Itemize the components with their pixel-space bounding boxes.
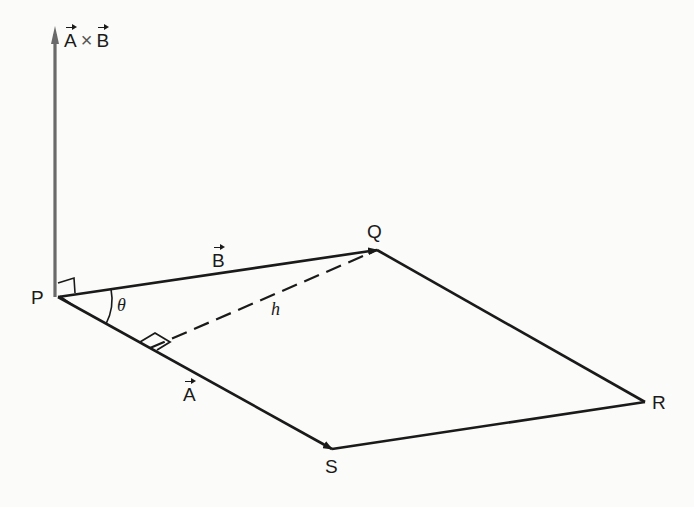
normal-vector-axb bbox=[51, 26, 59, 297]
vertex-r-label: R bbox=[652, 393, 666, 412]
vertex-p-label: P bbox=[31, 288, 44, 307]
side-qr-edge bbox=[377, 250, 645, 402]
diagram-canvas: A×B B A θ h P Q R S bbox=[0, 0, 694, 507]
cross-product-b: B bbox=[96, 31, 109, 50]
cross-product-a: A bbox=[64, 31, 77, 50]
vector-a-label: A bbox=[183, 385, 196, 404]
height-h-label: h bbox=[271, 300, 280, 318]
cross-product-operator: × bbox=[81, 29, 93, 51]
right-angle-marker-foot bbox=[140, 333, 170, 350]
height-h-dashed bbox=[150, 250, 377, 348]
vector-b-text: B bbox=[212, 251, 225, 270]
vector-a-edge bbox=[58, 297, 332, 449]
vertex-s-label: S bbox=[325, 457, 338, 476]
vector-b-label: B bbox=[212, 251, 225, 270]
parallelogram-diagram bbox=[0, 0, 694, 507]
angle-theta-label: θ bbox=[117, 296, 126, 314]
vector-a-text: A bbox=[183, 385, 196, 404]
angle-theta-arc bbox=[106, 289, 112, 324]
vertex-q-label: Q bbox=[367, 222, 382, 241]
side-sr-edge bbox=[332, 402, 645, 449]
cross-product-label: A×B bbox=[64, 30, 109, 50]
arrow-up-icon bbox=[51, 26, 59, 44]
